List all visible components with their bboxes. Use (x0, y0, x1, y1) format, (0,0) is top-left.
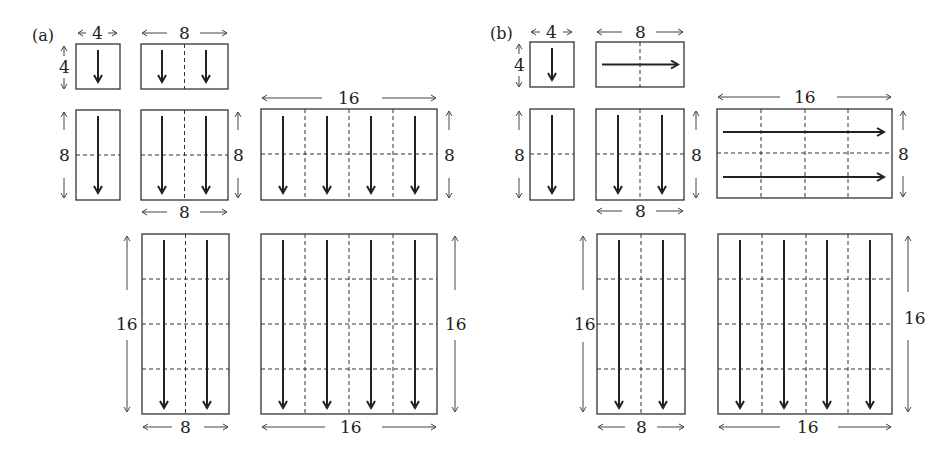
dim-label-height: 4 (514, 55, 525, 75)
dim-label-height: 16 (445, 314, 467, 334)
dim-label-width: 4 (92, 23, 103, 43)
tile-8x4: 8 (141, 23, 228, 89)
dim-label-width: 8 (179, 23, 190, 43)
tile-4x8: 8 (59, 110, 120, 200)
dim-label-height: 8 (444, 145, 455, 165)
dim-label-height: 8 (514, 145, 525, 165)
tile-16x8: 16 8 (717, 87, 909, 198)
dim-label-width: 8 (636, 417, 647, 437)
tile-4x8: 8 (514, 109, 574, 200)
dim-label-height: 8 (233, 145, 244, 165)
dim-label-width: 16 (340, 417, 362, 437)
tile-16x16: 16 16 (718, 234, 926, 437)
tile-4x4: 4 4 (59, 23, 120, 89)
dim-label-width: 8 (635, 22, 646, 42)
dim-label-width: 16 (797, 417, 819, 437)
dim-label-height: 8 (691, 145, 702, 165)
panel-a: (a) 4 4 8 (32, 23, 467, 437)
dim-label-height: 4 (59, 57, 70, 77)
dim-label-width: 16 (338, 88, 360, 108)
tile-4x4: 4 4 (514, 22, 574, 87)
dim-label-width: 8 (179, 202, 190, 222)
tile-8x8: 8 8 (141, 110, 244, 222)
panel-b: (b) 4 4 8 8 (490, 22, 926, 437)
dim-label-width: 8 (635, 201, 646, 221)
tile-16x8: 16 8 (261, 88, 455, 200)
dim-label-height: 16 (116, 314, 138, 334)
panel-label-b: (b) (490, 24, 513, 43)
panel-label-a: (a) (32, 26, 54, 45)
dim-label-width: 4 (546, 22, 557, 42)
tile-8x4: 8 (596, 22, 684, 87)
dim-label-width: 8 (180, 417, 191, 437)
dim-label-width: 16 (794, 87, 816, 107)
tile-8x8: 8 8 (596, 109, 702, 221)
tile-8x16: 16 8 (574, 234, 685, 437)
dim-label-height: 16 (904, 308, 926, 328)
tile-16x16: 16 16 (261, 234, 467, 437)
dim-label-height: 8 (59, 145, 70, 165)
dim-label-height: 8 (898, 144, 909, 164)
tile-8x16: 16 8 (116, 234, 229, 437)
dim-label-height: 16 (574, 314, 596, 334)
figure-canvas: (a) 4 4 8 (0, 0, 952, 461)
